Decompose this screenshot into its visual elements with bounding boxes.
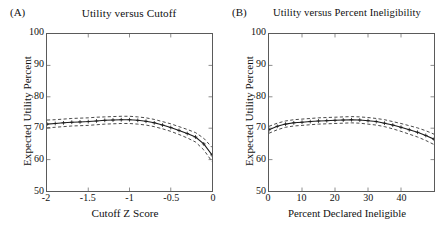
panel-b: (B) Utility versus Percent Ineligibility…: [222, 0, 444, 241]
xtick-label: -1: [125, 193, 133, 203]
panel-a-ytick-labels: 5060708090100: [14, 33, 44, 192]
series-markers: [269, 118, 434, 141]
ytick-row: 60: [236, 154, 266, 166]
ytick-label: 50: [240, 186, 266, 196]
ytick-label: 100: [18, 27, 44, 37]
ytick-row: 90: [14, 59, 44, 71]
ytick-row: 70: [236, 122, 266, 134]
xtick-label: 0: [211, 193, 216, 203]
xtick-label: -0.5: [163, 193, 179, 203]
ytick-label: 90: [240, 59, 266, 69]
panel-b-ytick-labels: 5060708090100: [236, 33, 266, 192]
figure-root: (A) Utility versus Cutoff Expected Utili…: [0, 0, 444, 241]
ytick-label: 60: [240, 154, 266, 164]
xtick-label: 30: [363, 193, 373, 203]
ytick-row: 80: [236, 91, 266, 103]
ytick-label: 80: [240, 91, 266, 101]
ytick-label: 70: [240, 122, 266, 132]
series-markers: [47, 118, 212, 157]
panel-a-title: Utility versus Cutoff: [40, 7, 218, 19]
ytick-label: 90: [18, 59, 44, 69]
panel-a: (A) Utility versus Cutoff Expected Utili…: [0, 0, 222, 241]
xtick-label: 10: [296, 193, 306, 203]
ytick-label: 50: [18, 186, 44, 196]
ytick-row: 70: [14, 122, 44, 134]
panel-b-plot-area: [268, 33, 435, 192]
ytick-row: 90: [236, 59, 266, 71]
ytick-row: 50: [236, 186, 266, 198]
ytick-row: 60: [14, 154, 44, 166]
panel-a-plot-area: [46, 33, 213, 192]
panel-b-xtick-labels: 010203040: [268, 193, 435, 207]
series-line: [47, 123, 212, 161]
panel-b-title: Utility versus Percent Ineligibility: [252, 7, 442, 18]
ytick-row: 50: [14, 186, 44, 198]
panel-a-xtick-labels: -2-1.5-1-0.50: [46, 193, 213, 207]
ytick-row: 80: [14, 91, 44, 103]
ytick-label: 80: [18, 91, 44, 101]
xtick-label: 0: [266, 193, 271, 203]
xtick-label: -2: [42, 193, 50, 203]
xtick-label: 20: [330, 193, 340, 203]
series-line: [47, 120, 212, 155]
xtick-label: 40: [397, 193, 407, 203]
xtick-label: -1.5: [80, 193, 96, 203]
ytick-label: 100: [240, 27, 266, 37]
panel-a-plot-svg: [47, 34, 212, 191]
series-line: [269, 123, 434, 145]
panel-b-xaxis-title: Percent Declared Ineligible: [252, 207, 442, 219]
ytick-row: 100: [14, 27, 44, 39]
ytick-row: 100: [236, 27, 266, 39]
panel-b-plot-svg: [269, 34, 434, 191]
panel-a-xaxis-title: Cutoff Z Score: [30, 207, 220, 219]
panel-b-letter: (B): [232, 6, 247, 18]
ytick-label: 70: [18, 122, 44, 132]
ytick-label: 60: [18, 154, 44, 164]
panel-a-letter: (A): [10, 6, 25, 18]
